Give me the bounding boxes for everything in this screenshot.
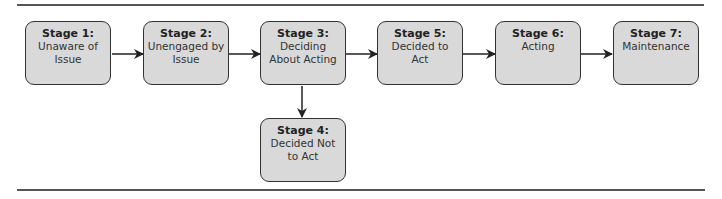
stage-1-desc: Unaware of Issue [26,40,110,66]
stage-3-title: Stage 3: [261,27,345,40]
stage-5-box: Stage 5: Decided to Act [377,21,463,85]
stage-2-desc: Unengaged by Issue [144,40,228,66]
stage-5-desc: Decided to Act [378,40,462,66]
stage-1-box: Stage 1: Unaware of Issue [25,21,111,85]
stage-3-desc: Deciding About Acting [261,40,345,66]
stage-2-box: Stage 2: Unengaged by Issue [143,21,229,85]
stage-6-box: Stage 6: Acting [495,21,581,85]
stage-4-desc: Decided Not to Act [261,137,345,163]
stage-2-title: Stage 2: [144,27,228,40]
stage-5-title: Stage 5: [378,27,462,40]
stage-7-desc: Maintenance [614,40,698,53]
stage-7-box: Stage 7: Maintenance [613,21,699,85]
stage-4-box: Stage 4: Decided Not to Act [260,118,346,182]
stage-1-title: Stage 1: [26,27,110,40]
stage-6-title: Stage 6: [496,27,580,40]
stage-3-box: Stage 3: Deciding About Acting [260,21,346,85]
stage-4-title: Stage 4: [261,124,345,137]
stage-6-desc: Acting [496,40,580,53]
stage-7-title: Stage 7: [614,27,698,40]
